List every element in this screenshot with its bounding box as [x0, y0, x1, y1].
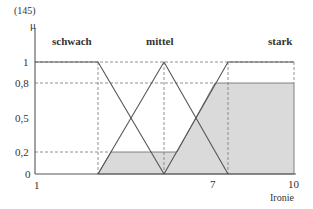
- x-tick-7: 7: [210, 178, 216, 190]
- y-tick-0.8: 0,8: [15, 77, 29, 89]
- x-tick-1: 1: [34, 179, 40, 191]
- label-mittel: mittel: [146, 35, 173, 47]
- figure-number: (145): [14, 5, 36, 17]
- x-axis-label: Ironie: [270, 192, 294, 203]
- fuzzy-chart: (145) μ schwach mittel stark 1 0,8 0,5 0…: [0, 0, 313, 209]
- shaded-output-area: [98, 83, 294, 174]
- y-tick-0.2: 0,2: [15, 146, 29, 158]
- y-axis-label: μ: [30, 19, 36, 31]
- label-stark: stark: [268, 35, 293, 47]
- label-schwach: schwach: [52, 35, 92, 47]
- y-tick-0.5: 0,5: [15, 112, 29, 124]
- y-tick-1: 1: [23, 56, 29, 68]
- y-tick-0: 0: [25, 168, 31, 180]
- x-tick-10: 10: [288, 178, 300, 190]
